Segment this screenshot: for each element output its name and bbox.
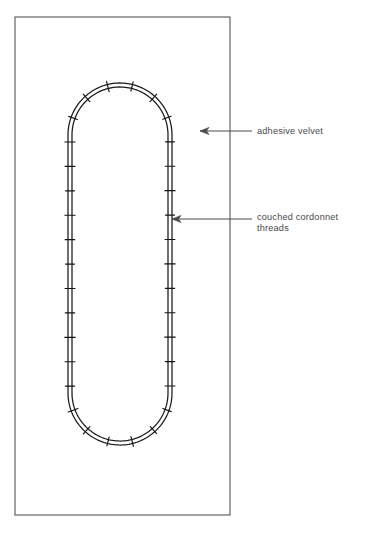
couching-stitch bbox=[68, 408, 78, 412]
annotation-leaders bbox=[172, 127, 252, 222]
couching-stitch bbox=[131, 82, 133, 91]
couching-stitch bbox=[131, 437, 133, 447]
diagram-root: adhesive velvetcouched cordonnetthreads bbox=[0, 0, 365, 533]
couching-stitch bbox=[107, 81, 110, 91]
technique-diagram-svg: adhesive velvetcouched cordonnetthreads bbox=[0, 0, 365, 533]
adhesive-velvet-label: adhesive velvet bbox=[257, 126, 323, 136]
couched-cordonnet-threads-label-line: threads bbox=[257, 223, 289, 233]
couching-stitch bbox=[107, 437, 109, 446]
annotation-labels: adhesive velvetcouched cordonnetthreads bbox=[257, 126, 339, 233]
couching-stitch-marks bbox=[65, 81, 176, 446]
adhesive-velvet-label-line: adhesive velvet bbox=[257, 126, 323, 136]
cordonnet-thread-outer bbox=[68, 83, 172, 445]
fabric-panel-border bbox=[15, 17, 230, 515]
cordonnet-thread-outline bbox=[68, 83, 172, 445]
couched-cordonnet-threads-label-line: couched cordonnet bbox=[257, 212, 339, 222]
cordonnet-thread-inner bbox=[72, 87, 168, 441]
couched-cordonnet-threads-label: couched cordonnetthreads bbox=[257, 212, 339, 233]
